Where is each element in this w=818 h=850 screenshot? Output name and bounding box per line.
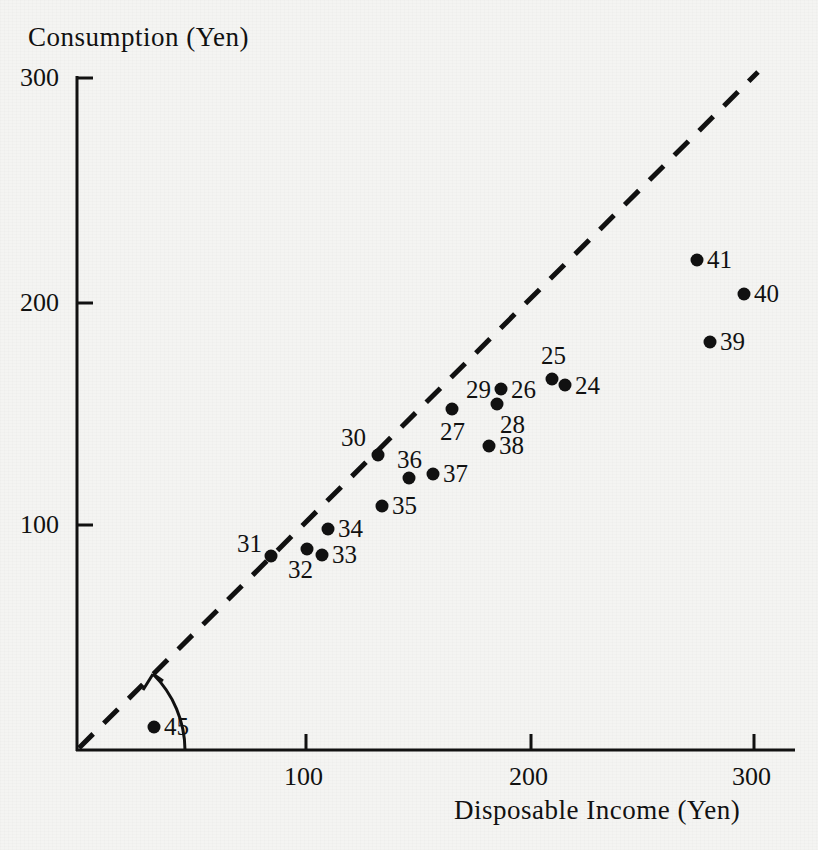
data-point-32[interactable] [301, 543, 314, 556]
data-point-label-36: 36 [397, 447, 422, 472]
data-point-28[interactable] [491, 398, 504, 411]
data-point-label-45: 45 [164, 714, 189, 739]
data-point-33[interactable] [316, 549, 329, 562]
data-point-30[interactable] [372, 449, 385, 462]
data-point-27[interactable] [446, 403, 459, 416]
data-point-25[interactable] [546, 373, 559, 386]
forty-five-degree-reference-line [79, 72, 758, 748]
data-point-label-31: 31 [237, 531, 262, 556]
data-point-label-30: 30 [341, 425, 366, 450]
data-point-label-33: 33 [332, 542, 357, 567]
data-point-label-26: 26 [511, 377, 536, 402]
data-point-34[interactable] [322, 523, 335, 536]
data-point-label-38: 38 [499, 433, 524, 458]
data-point-label-39: 39 [720, 329, 745, 354]
plot-canvas [0, 0, 818, 850]
data-point-37[interactable] [427, 468, 440, 481]
data-point-label-37: 37 [443, 461, 468, 486]
data-point-label-41: 41 [707, 247, 732, 272]
data-point-label-25: 25 [541, 343, 566, 368]
data-point-label-24: 24 [575, 373, 600, 398]
data-point-39[interactable] [704, 336, 717, 349]
data-point-label-35: 35 [392, 493, 417, 518]
data-point-label-29: 29 [466, 377, 491, 402]
data-point-40[interactable] [738, 288, 751, 301]
scatter-plot-figure: Consumption (Yen) Disposable Income (Yen… [0, 0, 818, 850]
data-point-label-40: 40 [754, 281, 779, 306]
data-point-26[interactable] [495, 383, 508, 396]
data-point-38[interactable] [483, 440, 496, 453]
data-point-35[interactable] [376, 500, 389, 513]
data-point-label-32: 32 [288, 557, 313, 582]
data-point-41[interactable] [691, 254, 704, 267]
data-point-label-27: 27 [440, 419, 465, 444]
data-point-24[interactable] [559, 379, 572, 392]
data-point-31[interactable] [265, 550, 278, 563]
data-point-36[interactable] [403, 472, 416, 485]
data-point-45[interactable] [148, 721, 161, 734]
data-point-label-34: 34 [338, 516, 363, 541]
